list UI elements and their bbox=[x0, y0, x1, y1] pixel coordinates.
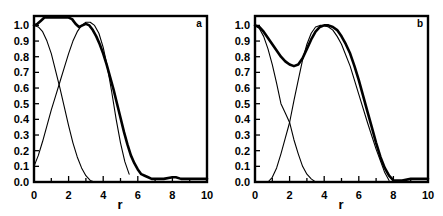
b-x-ticklabel: 10 bbox=[422, 189, 434, 201]
a-y-ticklabel: 0.5 bbox=[14, 98, 29, 110]
b-y-ticklabel: 0.2 bbox=[235, 145, 250, 157]
panel-a-curves bbox=[34, 18, 207, 182]
b-y-ticklabel: 1.0 bbox=[235, 19, 250, 31]
b-y-ticklabel: 0.5 bbox=[235, 98, 250, 110]
b-y-ticklabel: 0.6 bbox=[235, 82, 250, 94]
a-y-ticklabel: 0.2 bbox=[14, 145, 29, 157]
a-y-ticklabel: 0.6 bbox=[14, 82, 29, 94]
panel-a-y-ticklabels: 0.00.10.20.30.40.50.60.70.80.91.0 bbox=[14, 19, 30, 188]
a-y-ticklabel: 0.8 bbox=[14, 51, 29, 63]
panel-b-svg: 0.00.10.20.30.40.50.60.70.80.91.0 024681… bbox=[221, 0, 442, 216]
b-x-ticklabel: 4 bbox=[321, 189, 328, 201]
panel-b-tag: b bbox=[417, 18, 423, 29]
panel-a-tag: a bbox=[196, 18, 202, 29]
panel-a-frame bbox=[34, 16, 207, 182]
a-x-ticklabel: 6 bbox=[135, 189, 141, 201]
b-x-ticklabel: 6 bbox=[356, 189, 362, 201]
a-y-ticklabel: 0.3 bbox=[14, 129, 29, 141]
b-y-ticklabel: 0.1 bbox=[235, 160, 250, 172]
panel-b-curves bbox=[255, 25, 428, 182]
b-curve-component-2 bbox=[268, 25, 389, 182]
panel-a-svg: 0.00.10.20.30.40.50.60.70.80.91.0 024681… bbox=[0, 0, 221, 216]
a-curve-total bbox=[34, 18, 207, 179]
b-y-ticklabel: 0.7 bbox=[235, 66, 250, 78]
a-x-ticklabel: 4 bbox=[100, 189, 107, 201]
b-y-ticklabel: 0.0 bbox=[235, 176, 250, 188]
panel-b-frame bbox=[255, 16, 428, 182]
a-x-ticklabel: 2 bbox=[66, 189, 72, 201]
b-curve-component-1 bbox=[255, 25, 320, 182]
figure-container: 0.00.10.20.30.40.50.60.70.80.91.0 024681… bbox=[0, 0, 443, 216]
a-x-ticklabel: 8 bbox=[169, 189, 175, 201]
a-y-ticklabel: 0.0 bbox=[14, 176, 29, 188]
b-x-ticklabel: 0 bbox=[252, 189, 258, 201]
a-y-ticklabel: 0.4 bbox=[14, 113, 30, 125]
b-y-ticklabel: 0.4 bbox=[235, 113, 251, 125]
a-x-ticklabel: 0 bbox=[31, 189, 37, 201]
b-y-ticklabel: 0.3 bbox=[235, 129, 250, 141]
b-x-ticklabel: 8 bbox=[390, 189, 396, 201]
a-y-ticklabel: 0.9 bbox=[14, 35, 29, 47]
panel-a-plot-area: 0.00.10.20.30.40.50.60.70.80.91.0 024681… bbox=[14, 16, 213, 212]
panel-b-x-axis-title: r bbox=[338, 197, 343, 212]
panel-b: 0.00.10.20.30.40.50.60.70.80.91.0 024681… bbox=[221, 0, 442, 216]
a-y-ticklabel: 0.1 bbox=[14, 160, 29, 172]
b-y-ticklabel: 0.9 bbox=[235, 35, 250, 47]
a-x-ticklabel: 10 bbox=[201, 189, 213, 201]
panel-b-y-ticklabels: 0.00.10.20.30.40.50.60.70.80.91.0 bbox=[235, 19, 251, 188]
panel-b-plot-area: 0.00.10.20.30.40.50.60.70.80.91.0 024681… bbox=[235, 16, 434, 212]
b-x-ticklabel: 2 bbox=[287, 189, 293, 201]
panel-a-x-axis-title: r bbox=[117, 197, 122, 212]
a-y-ticklabel: 1.0 bbox=[14, 19, 29, 31]
a-y-ticklabel: 0.7 bbox=[14, 66, 29, 78]
panel-a: 0.00.10.20.30.40.50.60.70.80.91.0 024681… bbox=[0, 0, 221, 216]
a-curve-component-1 bbox=[34, 25, 103, 182]
b-y-ticklabel: 0.8 bbox=[235, 51, 250, 63]
